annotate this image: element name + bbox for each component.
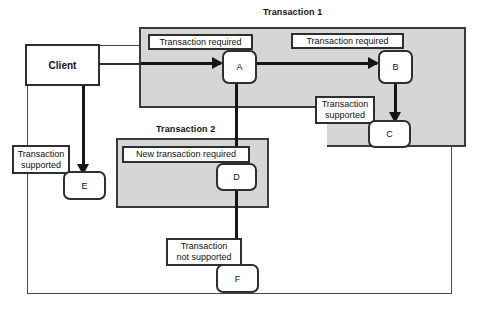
- label-transaction-supported-c: Transaction supported: [315, 96, 375, 124]
- node-d[interactable]: D: [216, 163, 257, 191]
- transaction-2-title: Transaction 2: [156, 124, 215, 134]
- transaction-1-title: Transaction 1: [263, 7, 322, 17]
- node-f[interactable]: F: [216, 264, 259, 293]
- connector-a-to-b: [257, 62, 377, 65]
- connector-client-to-a: [141, 62, 221, 65]
- node-e[interactable]: E: [63, 171, 106, 200]
- node-b[interactable]: B: [378, 50, 413, 84]
- node-a[interactable]: A: [222, 50, 257, 84]
- label-transaction-supported-e: Transaction supported: [12, 145, 70, 174]
- label-new-transaction-required-d: New transaction required: [122, 146, 250, 163]
- connector-client-to-e: [82, 86, 85, 174]
- label-transaction-required-a: Transaction required: [148, 34, 253, 50]
- diagram-canvas: Transaction 1 Transaction 2 Client Trans…: [0, 0, 482, 310]
- client-box[interactable]: Client: [25, 44, 100, 86]
- label-transaction-required-b: Transaction required: [291, 33, 404, 49]
- node-c[interactable]: C: [368, 120, 411, 148]
- label-transaction-not-supported-f: Transaction not supported: [166, 238, 242, 266]
- connector-client-to-a-stub: [100, 63, 142, 65]
